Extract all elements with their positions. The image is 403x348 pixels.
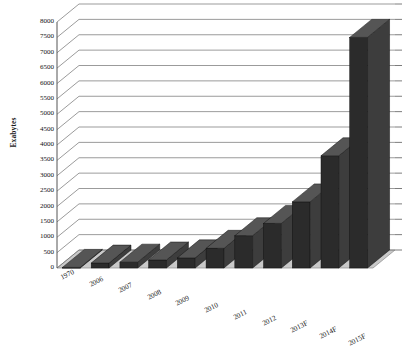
right-edge-ticks	[395, 4, 402, 250]
bar-column	[350, 19, 390, 268]
x-tick-label: 2015F	[347, 332, 367, 347]
